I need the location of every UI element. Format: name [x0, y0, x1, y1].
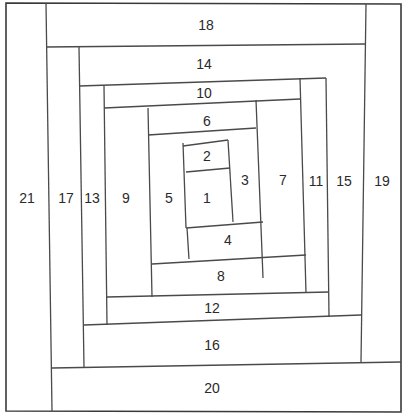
piece-label-1: 1 — [203, 190, 211, 206]
piece-label-8: 8 — [217, 268, 225, 284]
piece-label-20: 20 — [204, 380, 220, 396]
piece-label-14: 14 — [196, 56, 212, 72]
piece-label-10: 10 — [196, 85, 212, 101]
piece-label-6: 6 — [203, 113, 211, 129]
piece-label-4: 4 — [224, 232, 232, 248]
piece-label-21: 21 — [19, 190, 35, 206]
piece-label-2: 2 — [203, 148, 211, 164]
piece-label-9: 9 — [122, 190, 130, 206]
piece-label-17: 17 — [58, 190, 74, 206]
piece-label-13: 13 — [84, 190, 100, 206]
piece-label-16: 16 — [204, 337, 220, 353]
piece-label-15: 15 — [336, 173, 352, 189]
log-cabin-block-diagram: 123456789101112131415161718192021 — [0, 0, 402, 416]
piece-label-7: 7 — [279, 172, 287, 188]
piece-label-3: 3 — [241, 172, 249, 188]
piece-label-18: 18 — [198, 17, 214, 33]
piece-label-11: 11 — [309, 173, 324, 189]
piece-label-12: 12 — [204, 300, 220, 316]
piece-label-19: 19 — [374, 173, 390, 189]
piece-label-5: 5 — [165, 190, 173, 206]
